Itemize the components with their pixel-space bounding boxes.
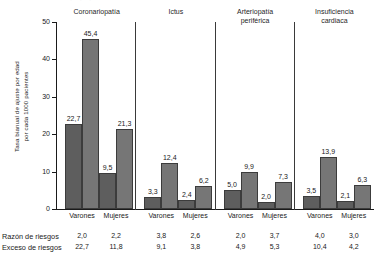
y-tick-label: 50 [24, 18, 50, 25]
bar-value-label: 21,3 [110, 120, 139, 127]
bar [99, 173, 116, 209]
bar [178, 200, 195, 209]
sex-label: Mujeres [332, 212, 376, 219]
cell-exceso-de-riesgos: 11,8 [94, 243, 138, 250]
bar [224, 190, 241, 209]
group-header-line2: periférica [216, 17, 295, 26]
cell-exceso-de-riesgos: 4,2 [332, 243, 376, 250]
group-header-line1: Arteriopatía [216, 8, 295, 17]
sex-label: Mujeres [94, 212, 138, 219]
bar [82, 39, 99, 209]
group-header-1: Coronariopatía [57, 8, 136, 17]
group-header-4: Insuficienciacardiaca [295, 8, 374, 25]
group-header-3: Arteriopatíaperiférica [216, 8, 295, 25]
sex-label: Mujeres [253, 212, 297, 219]
row-label-razon-de-riesgos: Razón de riesgos [2, 232, 59, 241]
y-tick-mark [52, 97, 56, 98]
bar-value-label: 13,9 [314, 148, 343, 155]
row-label-exceso-de-riesgos: Exceso de riesgos [2, 243, 62, 252]
group-header-line2: cardiaca [295, 17, 374, 26]
clipped-header-artifact: · · · [70, 0, 94, 3]
cell-razon-de-riesgos: 3,7 [253, 232, 297, 239]
cell-razon-de-riesgos: 2,6 [173, 232, 217, 239]
y-tick-mark [52, 22, 56, 23]
sex-label: Mujeres [173, 212, 217, 219]
bar-value-label: 6,3 [348, 176, 377, 183]
bar [275, 182, 292, 209]
cell-exceso-de-riesgos: 5,3 [253, 243, 297, 250]
y-tick-label: 30 [24, 93, 50, 100]
bar [303, 196, 320, 209]
cell-razon-de-riesgos: 3,0 [332, 232, 376, 239]
cell-razon-de-riesgos: 2,2 [94, 232, 138, 239]
group-separator-line [135, 22, 136, 210]
bar [161, 163, 178, 209]
group-header-line1: Coronariopatía [57, 8, 136, 17]
bar [116, 129, 133, 209]
group-header-2: Ictus [136, 8, 215, 17]
bar-value-label: 7,3 [269, 173, 298, 180]
y-axis-title: Tasa bianual de ajuste por edad por cada… [13, 27, 30, 187]
bar [195, 186, 212, 209]
bar-value-label: 45,4 [76, 30, 105, 37]
cell-exceso-de-riesgos: 3,8 [173, 243, 217, 250]
y-tick-mark [52, 209, 56, 210]
bar [354, 185, 371, 209]
y-axis-line [56, 22, 57, 209]
bar [144, 197, 161, 209]
bar-value-label: 12,4 [155, 154, 184, 161]
y-tick-mark [52, 59, 56, 60]
y-tick-mark [52, 172, 56, 173]
group-separator-line [294, 22, 295, 210]
bar-value-label: 9,9 [235, 163, 264, 170]
y-tick-label: 10 [24, 168, 50, 175]
group-header-line1: Ictus [136, 8, 215, 17]
y-axis-title-line2: por cada 1000 pacientes [21, 27, 30, 187]
y-tick-mark [52, 134, 56, 135]
bar [320, 157, 337, 209]
chart-figure: · · · Tasa bianual de ajuste por edad po… [0, 0, 377, 262]
bar [337, 201, 354, 209]
bar-value-label: 6,2 [189, 177, 218, 184]
y-tick-label: 20 [24, 130, 50, 137]
group-header-line1: Insuficiencia [295, 8, 374, 17]
bar [65, 124, 82, 209]
bar [258, 202, 275, 209]
y-tick-label: 0 [24, 205, 50, 212]
bar [241, 172, 258, 209]
y-tick-label: 40 [24, 55, 50, 62]
y-axis-title-line1: Tasa bianual de ajuste por edad [13, 61, 20, 152]
